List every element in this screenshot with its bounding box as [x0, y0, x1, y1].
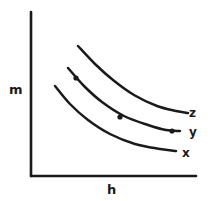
curve-marker-y	[169, 128, 174, 133]
curve-z	[78, 46, 188, 113]
curve-label-y: y	[189, 126, 197, 138]
chart-figure: m h z y x	[0, 0, 208, 201]
plot-canvas	[0, 0, 208, 201]
y-axis-label: m	[9, 83, 23, 96]
curve-markers-group	[73, 75, 174, 133]
curve-x	[55, 86, 176, 151]
x-axis-label: h	[107, 183, 116, 196]
curve-label-z: z	[189, 107, 196, 119]
curve-y	[68, 68, 180, 131]
curve-label-x: x	[182, 147, 190, 159]
curve-marker-y	[117, 114, 122, 119]
curve-marker-y	[73, 75, 78, 80]
curves-group	[55, 46, 188, 151]
